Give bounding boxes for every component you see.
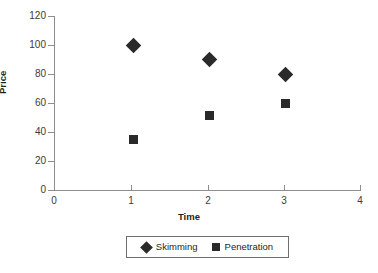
y-tick-60 <box>48 103 54 104</box>
data-point-skimming-1 <box>125 37 141 53</box>
x-tick-1 <box>131 185 132 191</box>
x-ticklabel-1: 1 <box>116 196 146 206</box>
legend-item-penetration: Penetration <box>212 242 274 252</box>
y-tick-40 <box>48 132 54 133</box>
scatter-chart: 120 100 80 60 40 20 0 0 1 2 3 4 Price Ti… <box>0 0 378 273</box>
legend-label-penetration: Penetration <box>225 242 274 252</box>
legend-item-skimming: Skimming <box>142 242 198 252</box>
data-point-penetration-1 <box>129 135 138 144</box>
x-tick-4 <box>360 185 361 191</box>
data-point-skimming-2 <box>201 51 217 67</box>
x-axis-title: Time <box>0 211 378 222</box>
y-ticklabel-40: 40 <box>6 127 46 137</box>
legend-label-skimming: Skimming <box>156 242 198 252</box>
x-ticklabel-2: 2 <box>193 196 223 206</box>
chart-legend: Skimming Penetration <box>126 236 289 258</box>
x-ticklabel-0: 0 <box>39 196 69 206</box>
diamond-marker-icon <box>140 241 153 254</box>
data-point-penetration-3 <box>281 99 290 108</box>
y-ticklabel-20: 20 <box>6 156 46 166</box>
square-marker-icon <box>212 243 220 251</box>
x-tick-0 <box>54 185 55 191</box>
y-tick-80 <box>48 74 54 75</box>
x-ticklabel-4: 4 <box>345 196 375 206</box>
y-ticklabel-0: 0 <box>6 185 46 195</box>
y-tick-20 <box>48 161 54 162</box>
data-point-penetration-2 <box>205 111 214 120</box>
x-tick-2 <box>208 185 209 191</box>
y-ticklabel-60: 60 <box>6 98 46 108</box>
y-axis-title: Price <box>0 71 8 94</box>
y-tick-100 <box>48 45 54 46</box>
y-axis-line <box>54 16 55 191</box>
y-ticklabel-120: 120 <box>6 11 46 21</box>
x-tick-3 <box>284 185 285 191</box>
y-tick-120 <box>48 16 54 17</box>
y-ticklabel-100: 100 <box>6 40 46 50</box>
data-point-skimming-3 <box>277 66 293 82</box>
x-ticklabel-3: 3 <box>269 196 299 206</box>
y-ticklabel-80: 80 <box>6 69 46 79</box>
